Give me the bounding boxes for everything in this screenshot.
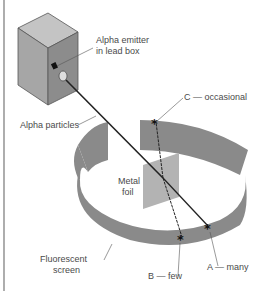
emitter-nozzle: [59, 71, 67, 81]
label-emitter-2: in lead box: [96, 46, 140, 56]
label-a-many: A — many: [207, 262, 249, 272]
label-metal-2: foil: [122, 187, 134, 197]
scintillation-b-icon: *: [177, 232, 184, 247]
label-emitter-1: Alpha emitter: [96, 35, 149, 45]
beam-a: [163, 178, 208, 226]
scintillation-c-icon: *: [151, 116, 158, 131]
scintillation-a-icon: *: [204, 221, 211, 236]
label-metal-1: Metal: [118, 176, 140, 186]
label-b-few: B — few: [148, 271, 183, 281]
leader-alpha: [78, 116, 96, 125]
rutherford-diagram: * * * Alpha emitter in lead box Alpha pa…: [0, 0, 256, 291]
label-fluorescent-2: screen: [53, 265, 80, 275]
leader-screen: [104, 244, 112, 260]
label-c-occasional: C — occasional: [184, 92, 247, 102]
label-alpha-particles: Alpha particles: [20, 120, 80, 130]
label-fluorescent-1: Fluorescent: [40, 254, 88, 264]
leader-c: [156, 98, 183, 122]
